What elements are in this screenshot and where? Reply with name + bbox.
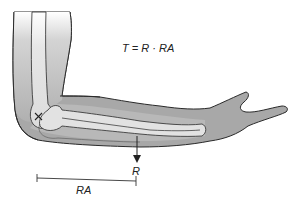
force-label: R	[132, 166, 140, 177]
torque-equation: T = R · RA	[122, 43, 174, 54]
lever-diagram: T = R · RA R RA	[0, 0, 294, 202]
resistance-arm-label: RA	[76, 185, 91, 196]
arm-illustration	[0, 0, 294, 202]
